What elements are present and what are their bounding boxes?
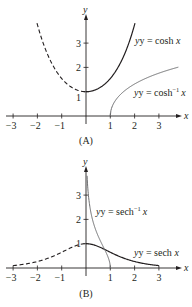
x-axis-label: x (183, 110, 189, 121)
x-tick-label: −1 (54, 272, 65, 283)
y-tick-label: 1 (76, 92, 81, 103)
cosh-label: yy = cosh x (134, 35, 181, 46)
x-tick-label: 3 (156, 272, 161, 283)
ticks: −3−2−1123123 (6, 38, 162, 131)
x-tick-label: −1 (54, 120, 65, 131)
x-tick-label: −3 (6, 272, 17, 283)
y-tick-label: 2 (76, 214, 81, 225)
x-tick-label: 1 (108, 272, 113, 283)
y-tick-label: 2 (76, 62, 81, 73)
arcsech-curve (87, 176, 110, 268)
x-tick-label: −2 (30, 120, 41, 131)
y-tick-label: 3 (76, 38, 81, 49)
x-axis-arrow-icon (176, 114, 182, 118)
cosh-dashed-curve (37, 24, 86, 92)
y-tick-label: 3 (76, 190, 81, 201)
x-tick-label: 3 (156, 120, 161, 131)
panel-a: x y −3−2−1123123 yy = cosh x yy = cosh−1… (6, 4, 189, 147)
caption-b: (B) (79, 288, 92, 300)
x-axis-arrow-icon (176, 266, 182, 270)
ticks: −3−2−1123123 (6, 190, 162, 283)
y-axis-label: y (82, 156, 88, 167)
arcsech-label: yy = sech−1x (95, 205, 148, 217)
arccosh-label: yy = cosh−1x (133, 86, 186, 98)
y-tick-label: 1 (76, 238, 81, 249)
sech-label: yy = sech x (133, 247, 179, 258)
x-tick-label: −2 (30, 272, 41, 283)
x-tick-label: −3 (6, 120, 17, 131)
x-tick-label: 2 (132, 272, 137, 283)
x-axis-label: x (183, 262, 189, 273)
caption-a: (A) (79, 135, 93, 147)
panel-b: x y −3−2−1123123 yy = sech−1x yy = sech … (6, 156, 189, 300)
y-axis-label: y (82, 4, 88, 15)
cosh-label-text: y = cosh (139, 35, 175, 46)
x-tick-label: 2 (132, 120, 137, 131)
cosh-label-var: x (175, 35, 181, 46)
x-tick-label: 1 (108, 120, 113, 131)
figure: x y −3−2−1123123 yy = cosh x yy = cosh−1… (0, 0, 192, 307)
cosh-curve (86, 24, 135, 92)
